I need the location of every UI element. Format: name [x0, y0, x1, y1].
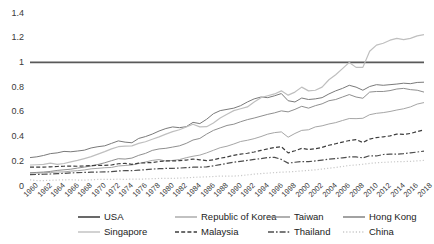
- legend-label: USA: [104, 212, 124, 222]
- legend-label: Malaysia: [201, 227, 239, 237]
- legend-swatch-china: [343, 228, 365, 236]
- y-axis-tick-label: 0.2: [0, 157, 24, 166]
- line-chart-svg: [0, 0, 428, 196]
- y-axis-tick-label: 0.4: [0, 132, 24, 141]
- chart-legend: USARepublic of KoreaTaiwanHong Kong Sing…: [0, 209, 428, 244]
- legend-label: Republic of Korea: [201, 212, 277, 222]
- legend-swatch-usa: [78, 213, 100, 221]
- y-axis-tick-label: 1.2: [0, 33, 24, 42]
- legend-item[interactable]: Taiwan: [268, 209, 324, 224]
- legend-label: China: [369, 227, 394, 237]
- legend-swatch-thailand: [268, 228, 290, 236]
- y-axis-tick-label: 0.6: [0, 107, 24, 116]
- plot-area: [0, 0, 428, 196]
- legend-row: USARepublic of KoreaTaiwanHong Kong: [0, 209, 428, 224]
- series-line-thailand: [30, 151, 424, 174]
- legend-item[interactable]: Hong Kong: [343, 209, 417, 224]
- legend-item[interactable]: Malaysia: [175, 224, 239, 239]
- y-axis-tick-label: 0.8: [0, 83, 24, 92]
- legend-item[interactable]: China: [343, 224, 394, 239]
- legend-label: Singapore: [104, 227, 147, 237]
- legend-label: Taiwan: [294, 212, 324, 222]
- legend-item[interactable]: Republic of Korea: [175, 209, 277, 224]
- legend-swatch-taiwan: [268, 213, 290, 221]
- legend-item[interactable]: USA: [78, 209, 124, 224]
- y-axis-tick-label: 0: [0, 182, 24, 191]
- legend-swatch-malaysia: [175, 228, 197, 236]
- legend-swatch-korea: [175, 213, 197, 221]
- legend-swatch-hongkong: [343, 213, 365, 221]
- series-line-taiwan: [30, 88, 424, 172]
- legend-row: SingaporeMalaysiaThailandChina: [0, 224, 428, 239]
- legend-swatch-singapore: [78, 228, 100, 236]
- y-axis-tick-label: 1: [0, 58, 24, 67]
- legend-label: Thailand: [294, 227, 330, 237]
- legend-item[interactable]: Thailand: [268, 224, 330, 239]
- y-axis-tick-label: 1.4: [0, 9, 24, 18]
- series-line-republic-of-korea: [30, 103, 424, 173]
- legend-item[interactable]: Singapore: [78, 224, 147, 239]
- series-line-singapore: [30, 35, 424, 165]
- legend-label: Hong Kong: [369, 212, 417, 222]
